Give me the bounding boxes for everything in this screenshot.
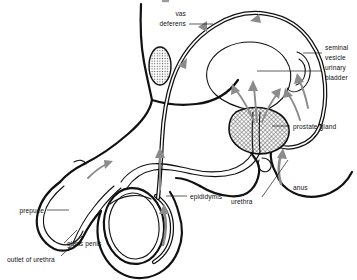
- epididymis-head-arc: [110, 196, 151, 204]
- flow-arrowhead-bladder-right: [271, 88, 281, 99]
- flow-arrow-penile-urethra: [88, 164, 107, 178]
- label-urinary-bladder-line2: bladder: [325, 74, 348, 81]
- flow-arrowhead-vas-apex: [250, 14, 261, 23]
- label-anus: anus: [293, 184, 308, 191]
- leader-urethra: [262, 160, 288, 197]
- top-crop-mark: [162, 0, 169, 2]
- buttock-outline: [276, 172, 352, 197]
- label-urethra: urethra: [231, 198, 253, 205]
- label-outlet-of-urethra: outlet of urethra: [7, 256, 55, 263]
- bulbar-urethra-upper: [121, 152, 253, 182]
- flow-arrowhead-penile-urethra: [104, 160, 113, 169]
- label-prostate-gland: prostate gland: [293, 123, 336, 131]
- label-epididymis: epididymis: [190, 193, 223, 201]
- label-prepuce: prepuce: [19, 207, 44, 215]
- label-glans-penis: glans penis: [67, 240, 102, 248]
- scrotum-upper-right: [170, 192, 179, 214]
- flow-arrow-anus: [279, 155, 281, 184]
- torso-back-outline: [141, 4, 152, 100]
- flow-arrowhead-seminal-vesicle: [294, 73, 304, 84]
- flow-arrowhead-vas-upper-left: [198, 21, 207, 32]
- kidney-organ: [149, 47, 171, 85]
- anatomical-diagram: vas deferens seminal vesicle urinary bla…: [0, 0, 357, 280]
- label-seminal-vesicle-line1: seminal: [325, 44, 349, 51]
- penile-urethra-upper: [73, 186, 114, 243]
- pelvic-floor-outline: [60, 164, 84, 182]
- perineum-outline: [176, 178, 200, 186]
- labels-group: vas deferens seminal vesicle urinary bla…: [7, 10, 349, 263]
- urinary-bladder-lower-right: [262, 60, 291, 115]
- abdominal-wall-outline: [84, 100, 152, 164]
- flow-arrowhead-bladder-center: [248, 80, 258, 91]
- gluteal-cleft-outline: [271, 150, 276, 173]
- label-vas-deferens-line2: deferens: [160, 20, 187, 27]
- label-seminal-vesicle-line2: vesicle: [325, 54, 346, 61]
- label-vas-deferens-line1: vas: [175, 10, 186, 17]
- flow-arrow-duct-bundle: [288, 94, 300, 120]
- urethral-bulb-loop: [258, 158, 271, 172]
- label-urinary-bladder-line1: urinary: [325, 64, 346, 72]
